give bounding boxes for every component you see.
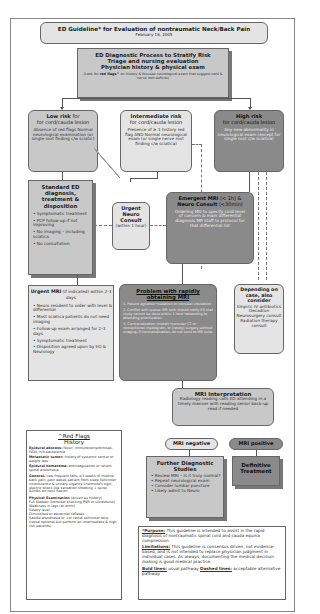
process-box: ED Diagnostic Process to Stratify Risk T… [77,48,229,98]
further-studies-box: Further Diagnostic Studies Review MRI – … [146,456,224,518]
problem-box: Problem with rapidly obtaining MRI 1. Pa… [119,284,217,381]
page-date: February 16, 2005 [41,33,267,38]
list-item: 3. Contraindication (metal)→consider CT … [123,323,213,335]
red-flags-box: ^Red Flags History Epidural abscess: fev… [26,430,122,600]
further-title: Further Diagnostic Studies [147,460,223,472]
header-box: ED Guideline* for Evaluation of nontraum… [40,22,268,44]
urgent-mri-sub: (if indicated) within 2-3 days [61,289,111,300]
list-item: No consultation [33,242,92,247]
urgent-neuro-sub: (within 1 hour) [113,224,149,229]
connector [77,275,78,285]
list-item: 1. Patient agitation→sedation or conside… [123,303,213,307]
problem-title: Problem with rapidly obtaining MRI [120,288,216,300]
low-risk-box: Low risk for for cord/cauda lesion Absen… [28,110,98,172]
urgent-neuro-title: Urgent Neuro Consult [113,206,149,223]
limitations-note: Limitations: This guideline is consensus… [142,545,282,564]
mri-negative-label: MRI negative [166,441,217,447]
list-item: Symptomatic treatment [33,212,92,217]
connector [130,178,158,179]
list-item: Likely admit to Neuro [151,489,223,494]
list-item: Radiation therapy consult [235,319,283,329]
red-flags-history: Epidural abscess: fever, immunocompromis… [27,446,121,530]
red-flag-entry: Epidural hematoma: anticoagulation or re… [29,465,119,473]
purpose-note: *Purpose: This guideline is intended to … [142,529,282,543]
connector [62,98,250,99]
list-item: Most sciatica patients do not need imagi… [33,315,113,325]
red-flag-entry: Epidural abscess: fever, immunocompromis… [29,447,119,455]
high-risk-subtitle: for cord/cauda lesion [215,120,283,126]
notes-box: *Purpose: This guideline is intended to … [138,526,286,600]
intermediate-risk-body: Presence of ≥ 1 history red flag AND Nor… [121,128,191,147]
process-exam: Physician history & physical exam [78,64,228,70]
dashed-connector [150,225,166,226]
mri-positive-label: MRI positive [230,441,282,447]
depending-list: Empiric IV antibiotics Decadron Neurosur… [235,305,283,329]
mri-interp-body: Radiology reading calls ED attending in … [173,397,273,411]
high-risk-box: High risk for cord/cauda lesion Any new … [214,110,284,172]
low-risk-subtitle: for cord/cauda lesion [29,120,97,126]
connector [249,172,250,192]
emergent-mri-box: Emergent MRI (< 1h) & Neuro Consult (<30… [166,192,254,264]
mri-interpretation-box: MRI Interpretation Radiology reading cal… [172,388,274,426]
urgent-mri-box: Urgent MRI (if indicated) within 2-3 day… [28,285,114,381]
neuro-consult-title: Neuro Consult [177,201,217,207]
connector [182,264,183,284]
intermediate-risk-subtitle: for cord/cauda lesion [121,120,191,126]
connector [130,178,131,182]
exam-item: Saddle anesthesia or ↓or rectal sphincte… [29,517,119,529]
legend-note: Bold lines: usual pathway Dashed lines: … [142,567,282,577]
list-item: 2. Conflict with queue: MR tech should n… [123,309,213,321]
list-item: Neuro resident to order with level & dif… [33,304,113,314]
red-flag-entry: General: new frequent falls, ≥3 weeks of… [29,475,119,495]
definitive-treatment-box: Definitive Treatment [232,456,280,486]
dashed-connector [94,225,112,226]
definitive-title: Definitive Treatment [233,462,279,474]
high-risk-body: Any new abnormality in neurological exam… [215,128,283,142]
low-risk-body: Absence of red flags Normal neurological… [29,128,97,142]
standard-ed-title: Standard ED diagnosis, treatment & dispo… [29,184,92,209]
dashed-connector [258,172,259,280]
neuro-consult-time: (<30min) [217,201,242,207]
emergent-body: Ordering MD to specify cord level of con… [167,210,253,229]
depending-box: Depending on case, also consider Empiric… [234,284,284,354]
mri-negative-box: MRI negative [165,438,218,450]
problem-list: 1. Patient agitation→sedation or conside… [120,300,216,334]
dashed-connector [94,148,120,178]
list-item: No imaging – including sciatica [33,230,92,240]
list-item: Follow-up exam arranged for 2-3 days [33,327,113,337]
list-item: Disposition agreed upon by ED & Neurolog… [33,345,113,355]
depending-title: Depending on case, also consider [235,287,283,304]
list-item: Symptomatic treatment [33,339,113,344]
process-note: (Look for red flags^ on history & focuse… [78,73,228,81]
standard-ed-list: Symptomatic treatment PCP follow-up if n… [29,212,92,247]
list-item: PCP follow-up if not improving [33,219,92,229]
mri-positive-box: MRI positive [229,438,283,450]
intermediate-risk-box: Intermediate risk for cord/cauda lesion … [120,110,192,172]
urgent-neuro-box: Urgent Neuro Consult (within 1 hour) [112,202,150,250]
urgent-mri-list: Neuro resident to order with level & dif… [29,304,113,355]
standard-ed-box: Standard ED diagnosis, treatment & dispo… [28,180,93,275]
red-flag-entry: Metastatic tumor: history of systemic ca… [29,456,119,464]
connector [62,172,63,180]
urgent-mri-title: Urgent MRI [31,289,62,294]
dashed-connector [266,172,267,280]
further-list: Review MRI – Is it truly normal? Repeat … [147,474,223,493]
